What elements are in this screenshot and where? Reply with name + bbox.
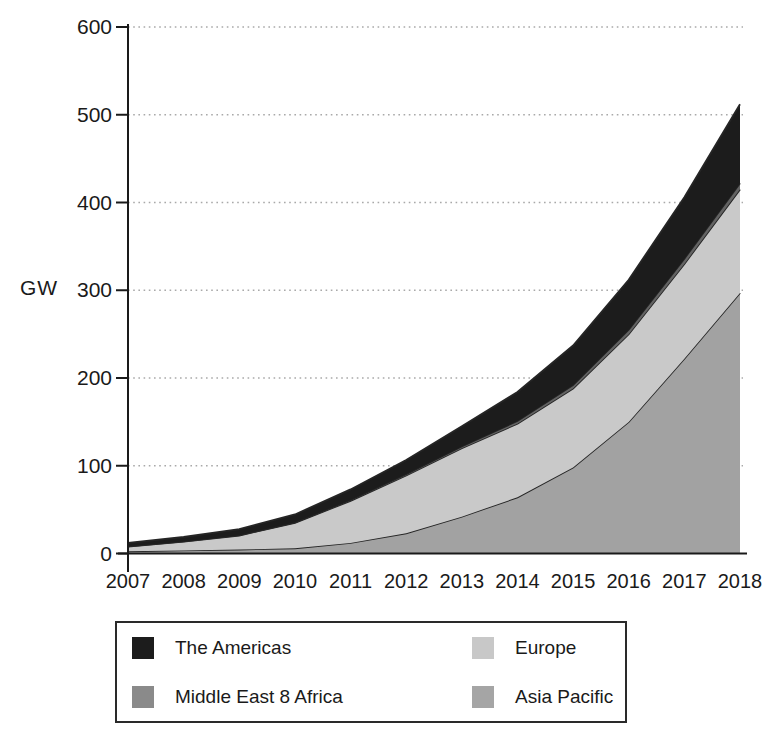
legend-swatch-icon <box>472 637 494 659</box>
y-tick-label: 100 <box>77 454 112 477</box>
y-tick-label: 500 <box>77 103 112 126</box>
legend: The AmericasEuropeMiddle East 8 AfricaAs… <box>115 621 627 723</box>
x-tick-label: 2011 <box>329 570 372 592</box>
x-tick-label: 2014 <box>495 570 540 592</box>
x-tick-label: 2007 <box>106 570 151 592</box>
x-tick-label: 2010 <box>273 570 318 592</box>
y-axis-title: GW <box>20 276 58 300</box>
legend-swatch-icon <box>132 686 154 708</box>
x-tick-label: 2015 <box>551 570 596 592</box>
legend-swatch-icon <box>132 637 154 659</box>
legend-item-label: The Americas <box>175 637 291 659</box>
chart-figure: 0100200300400500600200720082009201020112… <box>0 0 781 744</box>
legend-item: Middle East 8 Africa <box>117 686 457 708</box>
legend-item-label: Europe <box>515 637 576 659</box>
x-tick-label: 2008 <box>161 570 206 592</box>
legend-swatch-icon <box>472 686 494 708</box>
y-tick-label: 200 <box>77 366 112 389</box>
legend-item: The Americas <box>117 637 457 659</box>
legend-item: Europe <box>457 637 625 659</box>
x-tick-label: 2016 <box>606 570 651 592</box>
legend-item-label: Middle East 8 Africa <box>175 686 343 708</box>
stacked-area-plot: 0100200300400500600200720082009201020112… <box>0 0 781 615</box>
y-tick-label: 300 <box>77 278 112 301</box>
x-tick-label: 2018 <box>718 570 763 592</box>
y-tick-label: 0 <box>100 542 112 565</box>
x-tick-label: 2017 <box>662 570 707 592</box>
x-tick-label: 2009 <box>217 570 262 592</box>
x-tick-label: 2013 <box>440 570 485 592</box>
legend-item-label: Asia Pacific <box>515 686 613 708</box>
x-tick-label: 2012 <box>384 570 429 592</box>
legend-item: Asia Pacific <box>457 686 625 708</box>
y-tick-label: 600 <box>77 15 112 38</box>
y-tick-label: 400 <box>77 191 112 214</box>
